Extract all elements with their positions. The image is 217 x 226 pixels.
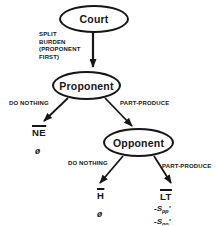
leaf-lt: LT -Spp′ -Soo′ [154,186,172,225]
payoff-2-subscript: oo [162,221,169,226]
leaf-h: H ø [97,185,104,221]
node-proponent: Proponent [52,71,121,100]
leaf-lt-label: LT [160,192,172,202]
payoff-2-base: -S [154,217,162,226]
node-court: Court [59,5,129,33]
edge-label-split-burden: SPLIT BURDEN (PROPONENT FIRST) [39,31,81,61]
payoff-1-base: -S [154,204,162,213]
split-burden-line-1: SPLIT [39,31,81,39]
leaf-lt-payoff-2: -Soo′ [154,217,172,226]
leaf-ne-label: NE [32,128,46,138]
node-proponent-label: Proponent [59,80,113,92]
leaf-lt-payoff-1: -Spp′ [154,204,172,217]
payoff-1-subscript: pp [162,208,169,214]
edge-label-proponent-part-produce: PART-PRODUCE [120,100,169,108]
node-opponent-label: Opponent [113,137,164,149]
payoff-1-prime: ′ [169,205,171,212]
leaf-h-payoff: ø [97,209,102,219]
leaf-ne: NE ø [32,122,46,158]
payoff-2-prime: ′ [169,218,171,225]
split-burden-line-2: BURDEN [39,39,81,47]
tree-edges [0,0,217,225]
split-burden-line-3: (PROPONENT [39,46,81,54]
edge-label-proponent-do-nothing: DO NOTHING [9,100,49,108]
split-burden-line-4: FIRST) [39,54,81,62]
edge-label-opponent-part-produce: PART-PRODUCE [162,163,211,171]
node-opponent: Opponent [103,128,174,157]
edge-label-opponent-do-nothing: DO NOTHING [68,160,108,168]
leaf-ne-payoff: ø [35,146,40,156]
game-tree-diagram: Court Proponent Opponent SPLIT BURDEN (P… [0,0,217,225]
leaf-h-label: H [97,191,104,201]
node-court-label: Court [80,13,109,25]
